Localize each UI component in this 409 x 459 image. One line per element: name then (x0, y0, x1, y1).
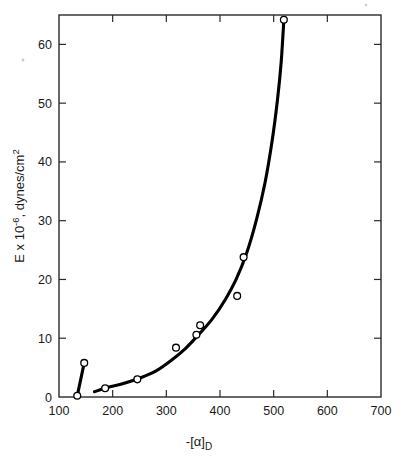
data-point-marker (134, 376, 141, 383)
curve-short-steep-segment (77, 363, 84, 396)
y-axis-title: E x 10-6, dynes/cm2 (10, 149, 27, 262)
x-tick-label: 200 (102, 404, 123, 418)
y-tick-label: 0 (45, 391, 52, 405)
scan-speck (22, 59, 25, 62)
x-axis-title: -[α]D (186, 434, 212, 452)
data-point-marker (173, 344, 180, 351)
plot-frame (59, 15, 381, 397)
scatter-chart: 100200300400500600700 0102030405060 -[α]… (0, 0, 409, 459)
y-axis-title-rest-exponent: 2 (10, 149, 21, 154)
y-axis-tick-labels: 0102030405060 (38, 38, 52, 405)
x-axis-tick-labels: 100200300400500600700 (49, 404, 392, 418)
data-point-markers (74, 16, 287, 399)
x-tick-label: 300 (156, 404, 177, 418)
data-point-marker (193, 331, 200, 338)
scan-speck (365, 4, 367, 6)
data-curves (77, 20, 284, 396)
y-axis-title-rest: , dynes/cm (12, 155, 27, 218)
y-axis-ticks (59, 44, 381, 338)
y-tick-label: 30 (38, 214, 52, 228)
x-tick-label: 100 (49, 404, 70, 418)
y-axis-title-exponent: -6 (10, 217, 21, 225)
y-tick-label: 60 (38, 38, 52, 52)
data-point-marker (234, 293, 241, 300)
x-tick-label: 400 (210, 404, 231, 418)
data-point-marker (240, 254, 247, 261)
data-point-marker (81, 360, 88, 367)
data-point-marker (197, 322, 204, 329)
figure-container: 100200300400500600700 0102030405060 -[α]… (0, 0, 409, 459)
x-tick-label: 700 (371, 404, 392, 418)
x-axis-title-subscript: D (205, 441, 212, 452)
svg-text:-[α]D: -[α]D (186, 434, 212, 452)
x-axis-ticks (113, 15, 328, 397)
data-point-marker (280, 16, 287, 23)
y-tick-label: 50 (38, 97, 52, 111)
svg-text:E x 10-6, dynes/cm2: E x 10-6, dynes/cm2 (10, 149, 27, 262)
y-tick-label: 20 (38, 273, 52, 287)
curve-main-trend-curve (94, 20, 283, 392)
x-axis-title-main: -[α] (186, 434, 205, 449)
x-tick-label: 500 (263, 404, 284, 418)
y-axis-title-lead: E x 10 (12, 226, 27, 263)
y-tick-label: 40 (38, 155, 52, 169)
x-tick-label: 600 (317, 404, 338, 418)
data-point-marker (102, 385, 109, 392)
y-tick-label: 10 (38, 332, 52, 346)
data-point-marker (74, 392, 81, 399)
